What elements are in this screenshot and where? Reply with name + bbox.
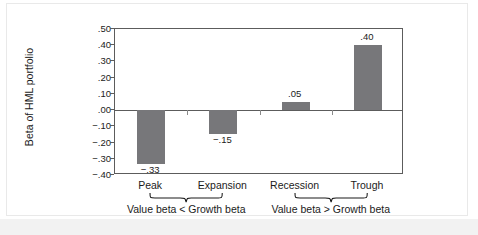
bar-value-label: −.15 — [213, 134, 232, 145]
bar — [282, 102, 310, 110]
group-brace — [294, 192, 368, 203]
y-tick-label: .30 — [85, 55, 111, 66]
bar — [137, 110, 165, 164]
y-tick-label: .10 — [85, 87, 111, 98]
plot-area — [114, 28, 403, 174]
bar — [354, 45, 382, 110]
category-tick — [260, 110, 261, 115]
category-label: Peak — [138, 179, 162, 191]
group-caption: Value beta > Growth beta — [271, 203, 390, 215]
group-captions: Value beta < Growth betaValue beta > Gro… — [7, 203, 478, 217]
bar-value-label: −.33 — [141, 164, 160, 175]
y-tick-label: .50 — [85, 23, 111, 34]
bar-value-label: .05 — [288, 88, 301, 99]
figure-card: Beta of HML portfolio .50.40.30.20.10.00… — [6, 3, 468, 216]
group-caption: Value beta < Growth beta — [127, 203, 246, 215]
y-tick-label: −.30 — [85, 152, 111, 163]
y-tick-label: .20 — [85, 71, 111, 82]
category-tick — [187, 110, 188, 115]
category-tick — [332, 110, 333, 115]
category-label: Recession — [270, 179, 319, 191]
bar — [209, 110, 237, 134]
bar-value-label: .40 — [360, 31, 373, 42]
y-tick-label: −.10 — [85, 120, 111, 131]
group-brace — [149, 192, 223, 203]
bottom-strip — [0, 219, 478, 235]
y-tick-label: −.20 — [85, 136, 111, 147]
y-tick-label: .40 — [85, 39, 111, 50]
y-axis-tick-labels: .50.40.30.20.10.00−.10−.20−.30−.40 — [83, 28, 111, 174]
y-tick-mark — [110, 174, 114, 175]
category-labels: PeakExpansionRecessionTrough — [7, 179, 478, 193]
category-label: Trough — [350, 179, 383, 191]
y-tick-label: −.40 — [85, 169, 111, 180]
y-axis-title: Beta of HML portfolio — [23, 22, 35, 172]
y-tick-label: .00 — [85, 104, 111, 115]
category-label: Expansion — [198, 179, 247, 191]
